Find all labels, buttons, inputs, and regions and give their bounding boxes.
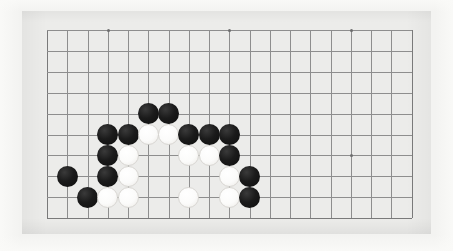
- stone-white-c4-r8[interactable]: [118, 187, 139, 208]
- stone-white-c9-r7[interactable]: [219, 166, 240, 187]
- stone-white-c9-r8[interactable]: [219, 187, 240, 208]
- stone-white-c5-r5[interactable]: [138, 124, 159, 145]
- stone-black-c10-r8[interactable]: [239, 187, 260, 208]
- stone-white-c7-r6[interactable]: [178, 145, 199, 166]
- stone-white-c3-r8[interactable]: [97, 187, 118, 208]
- stone-black-c9-r6[interactable]: [219, 145, 240, 166]
- stone-black-c10-r7[interactable]: [239, 166, 260, 187]
- stone-black-c4-r5[interactable]: [118, 124, 139, 145]
- stone-black-c5-r4[interactable]: [138, 103, 159, 124]
- stone-black-c6-r4[interactable]: [158, 103, 179, 124]
- stone-black-c8-r5[interactable]: [199, 124, 220, 145]
- stone-black-c7-r5[interactable]: [178, 124, 199, 145]
- stone-white-c8-r6[interactable]: [199, 145, 220, 166]
- stone-black-c3-r7[interactable]: [97, 166, 118, 187]
- stone-white-c4-r7[interactable]: [118, 166, 139, 187]
- stone-black-c3-r5[interactable]: [97, 124, 118, 145]
- stone-white-c4-r6[interactable]: [118, 145, 139, 166]
- stone-black-c2-r8[interactable]: [77, 187, 98, 208]
- stone-white-c7-r8[interactable]: [178, 187, 199, 208]
- stone-white-c6-r5[interactable]: [158, 124, 179, 145]
- stone-layer: [0, 0, 453, 251]
- stone-black-c1-r7[interactable]: [57, 166, 78, 187]
- go-board-photo: [0, 0, 453, 251]
- stone-black-c3-r6[interactable]: [97, 145, 118, 166]
- stone-black-c9-r5[interactable]: [219, 124, 240, 145]
